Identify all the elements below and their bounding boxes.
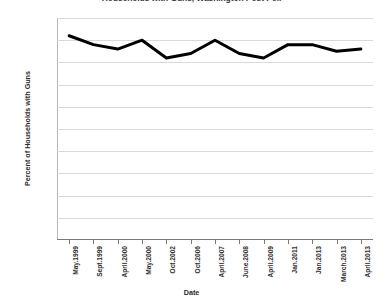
x-axis-tick-label: Oct.2006 [194, 246, 201, 274]
x-axis-tick-mark [93, 240, 94, 244]
x-axis-tick-label: Sept.1999 [96, 246, 103, 277]
x-axis-tick-label: April.2000 [121, 246, 128, 278]
plot-area [57, 18, 373, 240]
data-series-line [57, 18, 373, 240]
x-axis-tick-label: June.2008 [242, 246, 249, 278]
x-axis-tick-label: April.2013 [364, 246, 371, 278]
x-axis-tick-label: Jan.2011 [291, 246, 298, 274]
x-axis-tick-label: Jan.2013 [315, 246, 322, 274]
x-axis-tick-label: May.2000 [145, 246, 152, 275]
x-axis-tick-mark [118, 240, 119, 244]
x-axis-tick-label: May.1999 [72, 246, 79, 275]
x-axis-tick-mark [69, 240, 70, 244]
chart-container: Households with Guns, Washington Post Po… [0, 0, 383, 302]
x-axis-tick-mark [288, 240, 289, 244]
x-axis-tick-mark [142, 240, 143, 244]
x-axis-tick-mark [191, 240, 192, 244]
x-axis-tick-mark [239, 240, 240, 244]
x-axis-tick-mark [215, 240, 216, 244]
x-axis-tick-mark [166, 240, 167, 244]
x-axis-tick-label: April.2009 [267, 246, 274, 278]
x-axis-title: Date [0, 288, 383, 297]
series-polyline [69, 36, 361, 58]
x-axis-tick-mark [337, 240, 338, 244]
x-axis-tick-mark [264, 240, 265, 244]
x-axis-tick-mark [312, 240, 313, 244]
chart-title: Households with Guns, Washington Post Po… [0, 0, 383, 3]
x-axis-tick-label: Oct.2002 [169, 246, 176, 274]
x-axis-tick-label: March.2013 [340, 246, 347, 282]
x-axis-tick-label: April.2007 [218, 246, 225, 278]
x-axis-tick-mark [361, 240, 362, 244]
